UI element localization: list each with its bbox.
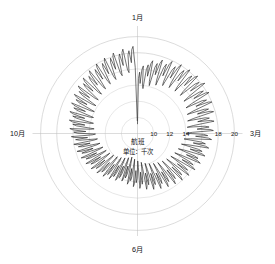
center-title-label: 航班 (131, 137, 145, 146)
radial-tick-18: 18 (215, 130, 222, 137)
month-label-january: 1月 (132, 13, 143, 22)
polar-chart: 10 12 14 18 20 航班 单位：千次 1月 3月 6月 10月 (0, 0, 275, 264)
month-label-march: 3月 (250, 129, 261, 138)
month-label-june: 6月 (132, 245, 143, 254)
radial-tick-10: 10 (150, 130, 157, 137)
month-label-october: 10月 (10, 129, 25, 138)
radial-tick-20: 20 (231, 130, 238, 137)
center-unit-label: 单位：千次 (123, 147, 154, 156)
radial-tick-12: 12 (166, 130, 173, 137)
polar-chart-canvas: 10 12 14 18 20 航班 单位：千次 1月 3月 6月 10月 (0, 0, 275, 264)
radial-tick-14: 14 (183, 130, 190, 137)
